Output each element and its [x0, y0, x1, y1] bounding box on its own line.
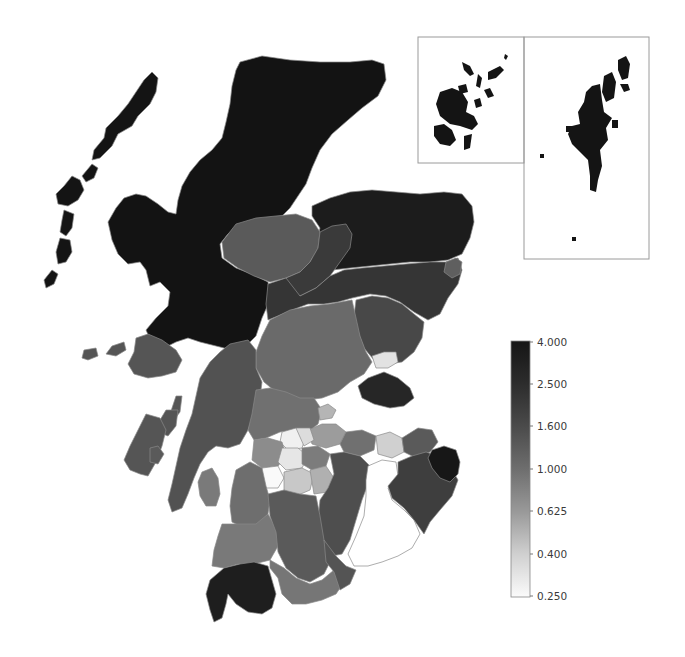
colorbar-label-max: 4.000 [537, 336, 567, 348]
colorbar: 4.000 2.500 1.600 1.000 0.625 0.400 0.25… [511, 336, 567, 602]
inset-shetland [524, 37, 649, 259]
colorbar-label: 0.625 [537, 505, 567, 517]
region-dundee [372, 352, 398, 368]
region-edinburgh [376, 432, 404, 458]
colorbar-label: 1.000 [537, 463, 567, 475]
region-clackmannan [318, 404, 336, 420]
colorbar-gradient [511, 341, 530, 597]
colorbar-label: 0.400 [537, 548, 567, 560]
choropleth-map: 4.000 2.500 1.600 1.000 0.625 0.400 0.25… [0, 0, 685, 657]
region-galloway [206, 562, 276, 622]
argyll-islands [82, 334, 182, 476]
region-arran [198, 468, 220, 506]
colorbar-label: 1.600 [537, 420, 567, 432]
colorbar-label: 2.500 [537, 378, 567, 390]
region-fife [358, 372, 414, 408]
colorbar-label-min: 0.250 [537, 590, 567, 602]
inset-orkney [418, 37, 524, 163]
